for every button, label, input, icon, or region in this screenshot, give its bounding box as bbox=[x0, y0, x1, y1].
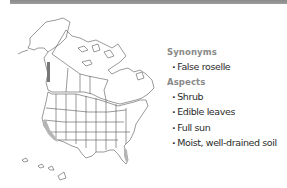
aspect-item: ·Full sun bbox=[172, 120, 287, 136]
usa-outline bbox=[42, 92, 148, 164]
synonym-item: ·False roselle bbox=[172, 59, 287, 75]
aspect-text: Full sun bbox=[177, 122, 210, 133]
alaska-outline bbox=[28, 18, 70, 52]
aspect-item: ·Shrub bbox=[172, 89, 287, 105]
bullet-icon: · bbox=[172, 89, 175, 105]
bullet-icon: · bbox=[172, 120, 175, 136]
synonym-text: False roselle bbox=[177, 61, 230, 72]
aspect-text: Edible leaves bbox=[177, 106, 235, 117]
aspect-text: Shrub bbox=[177, 91, 203, 102]
range-shade-florida bbox=[124, 148, 128, 162]
synonyms-heading: Synonyms bbox=[167, 46, 287, 59]
bullet-icon: · bbox=[172, 104, 175, 120]
aspect-item: ·Moist, well-drained soil bbox=[172, 135, 287, 151]
bullet-icon: · bbox=[172, 135, 175, 151]
aspects-heading: Aspects bbox=[167, 76, 287, 89]
range-shade-bc bbox=[47, 62, 50, 82]
aspect-item: ·Edible leaves bbox=[172, 104, 287, 120]
hawaii-outline bbox=[22, 158, 28, 162]
bullet-icon: · bbox=[172, 59, 175, 75]
canada-outline bbox=[44, 30, 154, 104]
distribution-map bbox=[8, 8, 158, 183]
plant-info-panel: Synonyms ·False roselle Aspects ·Shrub ·… bbox=[167, 46, 287, 151]
top-bar bbox=[10, 0, 287, 4]
aspect-text: Moist, well-drained soil bbox=[177, 137, 276, 148]
